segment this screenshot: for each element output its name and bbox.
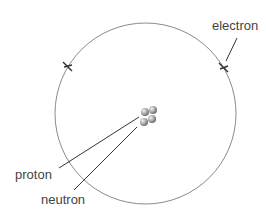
nucleus-particle <box>148 115 156 123</box>
proton-label: proton <box>15 168 52 181</box>
nucleus <box>140 106 157 126</box>
electron-label: electron <box>212 19 258 32</box>
electron-right <box>219 63 228 72</box>
nucleus-particle <box>141 108 149 116</box>
electron-leader-line <box>226 38 237 61</box>
nucleus-particle <box>140 118 148 126</box>
neutron-label: neutron <box>41 193 85 206</box>
nucleus-particle <box>149 106 157 114</box>
proton-leader-line <box>59 117 139 168</box>
neutron-leader-line <box>74 127 137 190</box>
